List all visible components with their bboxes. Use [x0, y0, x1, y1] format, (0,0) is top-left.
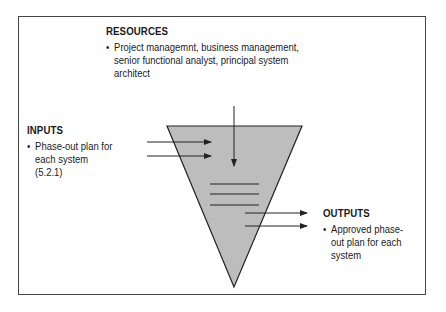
outputs-item: Approved phase-out plan for each system — [323, 223, 413, 262]
inputs-item: Phase-out plan for each system (5.2.1) — [27, 140, 117, 179]
inputs-block: INPUTS Phase-out plan for each system (5… — [27, 124, 127, 179]
resources-block: RESOURCES Project managemnt, business ma… — [106, 25, 336, 80]
inputs-title: INPUTS — [27, 124, 63, 137]
outputs-title: OUTPUTS — [323, 207, 370, 220]
outputs-block: OUTPUTS Approved phase-out plan for each… — [323, 207, 423, 262]
resources-item: Project managemnt, business management, … — [106, 41, 313, 80]
resources-title: RESOURCES — [106, 25, 168, 38]
